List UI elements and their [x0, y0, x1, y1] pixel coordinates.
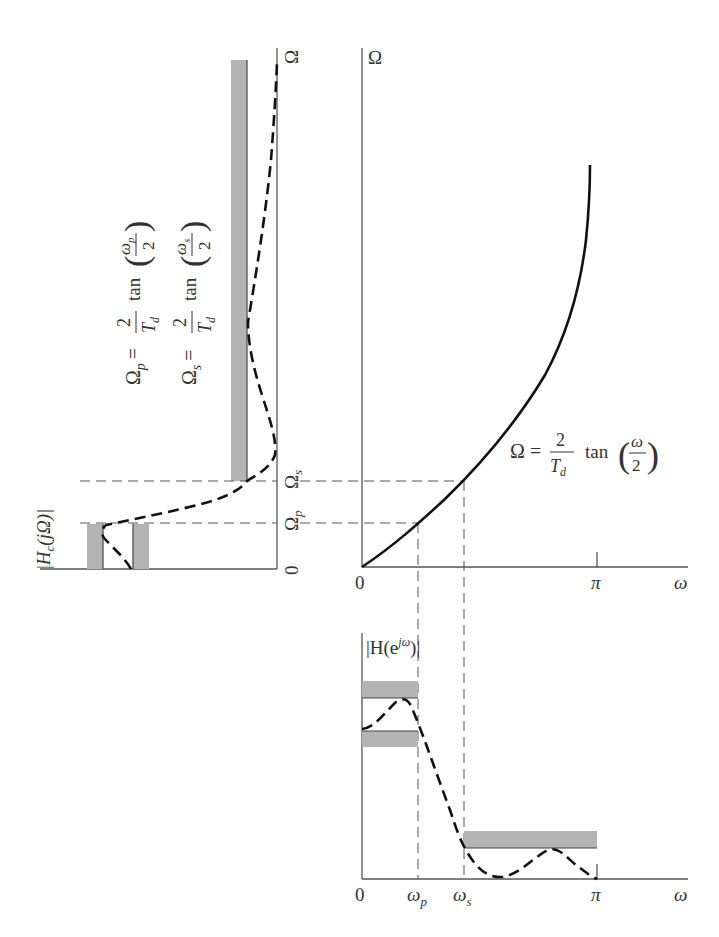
digital-tick-zero: 0: [355, 884, 365, 905]
mapping-yaxis-label: Ω: [368, 47, 382, 68]
bilinear-mapping-curve: [362, 165, 590, 567]
svg-text:tan: tan: [179, 277, 200, 301]
equation-omega-p: Ωp= 2 Td tan ( ωp 2 ): [114, 221, 162, 385]
analog-tick-omega-p: Ωp: [281, 510, 305, 531]
svg-text:Ωp=: Ωp=: [122, 348, 148, 385]
svg-text:): ): [118, 221, 156, 232]
svg-text:2: 2: [195, 242, 214, 251]
mapping-plot: Ω 0 π ω Ω= 2 Td tan ( ω 2 ): [300, 47, 688, 879]
digital-response-plot: |H(ejω)| 0 ωp ωs π ω: [355, 633, 688, 909]
svg-text:2: 2: [632, 456, 641, 475]
svg-text:Td: Td: [550, 456, 567, 479]
digital-ylabel: |H(ejω)|: [366, 635, 420, 659]
mapping-xaxis-label: ω: [674, 572, 687, 593]
svg-text:ω: ω: [631, 432, 643, 451]
analog-passband-lower-bar: [133, 524, 149, 569]
svg-text:ωs: ωs: [171, 239, 192, 255]
svg-text:2: 2: [170, 318, 190, 327]
svg-text:Td: Td: [139, 316, 162, 333]
analog-tick-zero: 0: [281, 566, 302, 576]
analog-response-curve: [102, 62, 277, 569]
svg-text:(: (: [118, 256, 156, 267]
svg-text:tan: tan: [585, 441, 609, 462]
analog-ylabel: |Hc(jΩ)|: [33, 509, 57, 569]
svg-text:2: 2: [556, 430, 565, 450]
digital-stopband-bar: [464, 831, 597, 848]
mapping-equation: Ω= 2 Td tan ( ω 2 ): [510, 430, 659, 479]
digital-tick-omega-p: ωp: [407, 884, 427, 909]
digital-passband-lower-bar: [362, 731, 418, 747]
mapping-tick-pi: π: [591, 572, 601, 593]
svg-text:ωp: ωp: [115, 237, 136, 255]
analog-passband-upper-bar: [87, 524, 103, 569]
digital-tick-omega-s: ωs: [453, 884, 471, 909]
svg-text:2: 2: [139, 242, 158, 251]
svg-text:(: (: [174, 256, 212, 267]
digital-response-curve: [362, 699, 597, 879]
svg-text:Ω=: Ω=: [510, 440, 541, 462]
svg-text:tan: tan: [123, 277, 144, 301]
equation-omega-s: Ωs= 2 Td tan ( ωs 2 ): [170, 221, 218, 385]
analog-axis-label-omega: Ω: [281, 50, 302, 64]
mapping-tick-zero: 0: [355, 572, 365, 593]
svg-text:): ): [647, 435, 659, 475]
svg-text:Td: Td: [195, 316, 218, 333]
digital-xaxis-label: ω: [674, 884, 687, 905]
bilinear-transform-figure: |Hc(jΩ)| 0 Ωp Ωs Ω Ωp= 2 Td tan ( ωp 2 )…: [0, 0, 719, 937]
analog-tick-omega-s: Ωs: [281, 470, 305, 489]
digital-tick-pi: π: [591, 884, 601, 905]
svg-text:Ωs=: Ωs=: [178, 349, 204, 385]
svg-text:2: 2: [114, 318, 134, 327]
analog-stopband-bar: [231, 60, 247, 481]
analog-response-plot: |Hc(jΩ)| 0 Ωp Ωs Ω Ωp= 2 Td tan ( ωp 2 )…: [33, 48, 305, 575]
digital-passband-upper-bar: [362, 681, 418, 698]
svg-text:(: (: [618, 435, 630, 475]
svg-text:): ): [174, 221, 212, 232]
